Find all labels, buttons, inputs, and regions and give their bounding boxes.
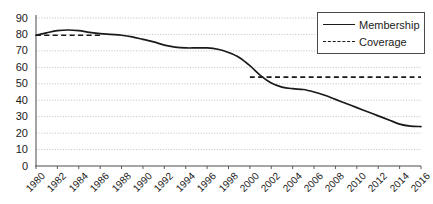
legend-item-label: Coverage (358, 36, 407, 48)
y-axis-tick-label: 50 (2, 78, 28, 89)
y-axis-tick-label: 10 (2, 144, 28, 155)
chart-legend: MembershipCoverage (317, 12, 425, 54)
legend-item-membership[interactable]: Membership (320, 16, 420, 33)
legend-item-coverage[interactable]: Coverage (320, 33, 420, 50)
legend-item-label: Membership (358, 19, 420, 31)
y-axis-tick-label: 70 (2, 45, 28, 56)
y-axis-tick-label: 40 (2, 95, 28, 106)
y-axis-tick-label: 0 (2, 161, 28, 172)
y-axis-tick-label: 90 (2, 13, 28, 24)
legend-solid-line-icon (320, 18, 358, 32)
legend-dashed-line-icon (320, 35, 358, 49)
y-axis-tick-label: 60 (2, 62, 28, 73)
y-axis-tick-label: 30 (2, 111, 28, 122)
chart-figure: 9080706050403020100 19801982198419861988… (0, 0, 433, 204)
y-axis-tick-label: 80 (2, 29, 28, 40)
y-axis-tick-label: 20 (2, 128, 28, 139)
